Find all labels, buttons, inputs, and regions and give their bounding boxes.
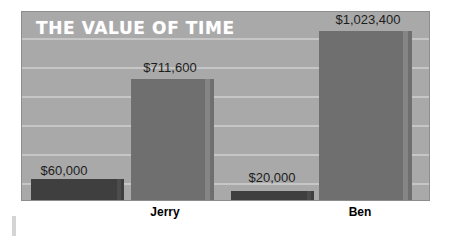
- bar-highlight: [205, 79, 210, 200]
- value-label: $20,000: [232, 170, 312, 185]
- margin-tick-mark: [12, 216, 16, 236]
- bar-jerry-large: [131, 79, 214, 200]
- bar-jerry-small: [31, 179, 124, 200]
- value-label: $60,000: [24, 163, 104, 178]
- chart-figure: THE VALUE OF TIME $60,000$711,600$20,000…: [0, 0, 450, 241]
- bar-highlight: [117, 179, 121, 200]
- value-label: $1,023,400: [318, 12, 418, 27]
- category-label-jerry: Jerry: [125, 205, 205, 219]
- bar-highlight: [403, 31, 408, 200]
- bar-ben-small: [231, 191, 314, 200]
- bar-ben-large: [319, 31, 412, 200]
- category-label-ben: Ben: [320, 205, 400, 219]
- bar-highlight: [307, 191, 311, 200]
- chart-title: THE VALUE OF TIME: [36, 18, 235, 38]
- value-label: $711,600: [125, 60, 215, 75]
